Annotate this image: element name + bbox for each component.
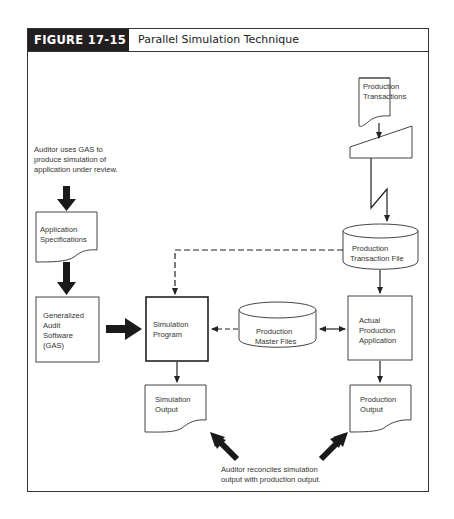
simulation-output-label: Simulation Output bbox=[155, 395, 190, 415]
auditor-reconciles-note: Auditor reconciles simulation output wit… bbox=[221, 465, 321, 485]
simulation-program-label: Simulation Program bbox=[153, 320, 188, 340]
arrow-communication-link bbox=[371, 158, 387, 221]
arrow-file-to-program-dashed bbox=[175, 250, 343, 294]
bold-arrow-specs-to-gas bbox=[57, 262, 76, 295]
production-output-label: Production Output bbox=[360, 395, 396, 415]
bold-arrow-gas-note-down bbox=[57, 186, 76, 211]
actual-production-application-label: Actual Production Application bbox=[359, 316, 396, 346]
application-specifications-label: Application Specifications bbox=[40, 225, 87, 245]
auditor-uses-gas-note: Auditor uses GAS to produce simulation o… bbox=[34, 145, 118, 175]
bold-arrow-gas-to-program bbox=[106, 318, 142, 340]
bold-arrow-shaft-left bbox=[220, 442, 237, 459]
production-transactions-label: Production Transactions bbox=[363, 82, 406, 102]
production-transaction-file-label: Production Transaction File bbox=[350, 244, 404, 264]
production-master-files-label: Production Master Files bbox=[255, 327, 296, 347]
manual-input-shape bbox=[350, 126, 412, 158]
gas-label: Generalized Audit Software (GAS) bbox=[43, 311, 84, 351]
bold-arrow-shaft-right bbox=[321, 442, 338, 459]
